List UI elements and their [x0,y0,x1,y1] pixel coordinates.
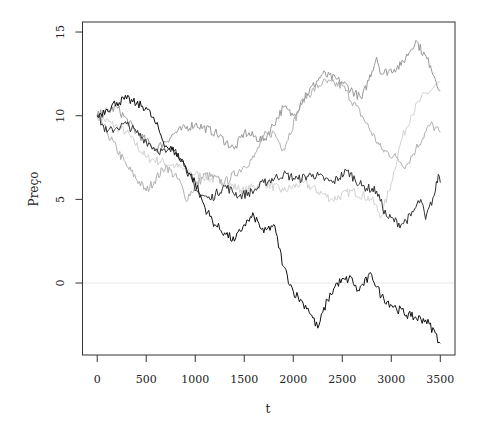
x-tick-label: 2000 [279,373,307,386]
x-tick-label: 1000 [181,373,209,386]
series-path-5 [97,81,440,218]
y-axis-title: Preço [27,172,41,207]
x-tick-label: 0 [94,373,101,386]
line-chart: 0500100015002000250030003500 051015 t Pr… [0,0,481,434]
x-axis-title: t [266,402,271,416]
series-path-3 [97,40,440,152]
y-tick-label: 5 [54,196,67,203]
y-tick-label: 10 [54,109,67,123]
series-layer [97,40,440,343]
x-axis: 0500100015002000250030003500 [94,355,455,386]
x-tick-label: 1500 [230,373,258,386]
x-tick-label: 2500 [328,373,356,386]
y-tick-label: 0 [54,280,67,287]
plot-frame [83,22,456,355]
x-tick-label: 3500 [426,373,454,386]
y-tick-label: 15 [54,25,67,39]
y-axis: 051015 [54,25,83,287]
x-tick-label: 500 [136,373,157,386]
x-tick-label: 3000 [377,373,405,386]
